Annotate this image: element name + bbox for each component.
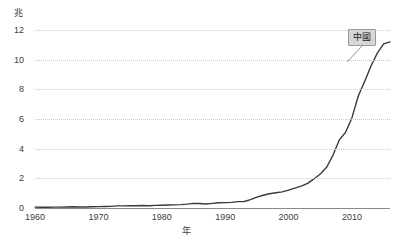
x-axis-tick-label: 1960: [25, 212, 45, 223]
x-axis-tick-label: 1990: [215, 212, 235, 223]
x-axis-tick-label: 2000: [279, 212, 299, 223]
x-axis-baseline: [35, 208, 390, 209]
y-axis-tick-label: 0: [0, 203, 24, 213]
y-axis-tick-label: 10: [0, 55, 24, 65]
gridline-y: [35, 30, 390, 31]
gridline-y: [35, 89, 390, 90]
series-label-leader-line: [345, 44, 367, 66]
gridline-y: [35, 178, 390, 179]
y-axis-tick-label: 4: [0, 144, 24, 154]
x-axis-tick-label: 1970: [88, 212, 108, 223]
y-axis-tick-label: 2: [0, 173, 24, 183]
x-axis-tick-label: 1980: [152, 212, 172, 223]
y-axis-unit-label: 兆: [14, 8, 23, 19]
x-axis-tick-label: 2010: [342, 212, 362, 223]
plot-area: 024681012196019701980199020002010: [35, 30, 390, 208]
y-axis-tick-label: 8: [0, 84, 24, 94]
gridline-y: [35, 60, 390, 61]
series-label-china[interactable]: 中國: [348, 29, 376, 46]
y-axis-tick-label: 6: [0, 114, 24, 124]
x-axis-unit-label: 年: [182, 226, 191, 237]
chart-container: 兆 年 024681012196019701980199020002010 中國: [0, 0, 397, 245]
gridline-y: [35, 149, 390, 150]
y-axis-tick-label: 12: [0, 25, 24, 35]
gridline-y: [35, 119, 390, 120]
